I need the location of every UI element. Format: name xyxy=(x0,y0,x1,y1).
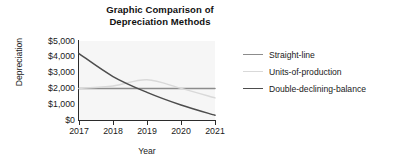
legend-line-swatch-icon xyxy=(243,88,263,90)
legend-item-label: Units-of-production xyxy=(269,67,342,77)
x-tick-mark xyxy=(215,121,216,125)
legend-line-swatch-icon xyxy=(243,71,263,73)
legend-item[interactable]: Double-declining-balance xyxy=(243,80,393,97)
x-axis-label: Year xyxy=(78,146,216,156)
legend-item-label: Double-declining-balance xyxy=(269,84,366,94)
x-tick-mark xyxy=(181,121,182,125)
chart-legend: Straight-lineUnits-of-productionDouble-d… xyxy=(243,46,393,97)
legend-item-label: Straight-line xyxy=(269,50,315,60)
x-tick-mark xyxy=(113,121,114,125)
legend-item[interactable]: Units-of-production xyxy=(243,63,393,80)
x-tick-mark xyxy=(147,121,148,125)
x-tick-mark xyxy=(79,121,80,125)
x-tick-label: 2021 xyxy=(195,126,235,136)
legend-line-swatch-icon xyxy=(243,54,263,56)
depreciation-comparison-chart: Graphic Comparison of Depreciation Metho… xyxy=(0,0,395,167)
legend-item[interactable]: Straight-line xyxy=(243,46,393,63)
